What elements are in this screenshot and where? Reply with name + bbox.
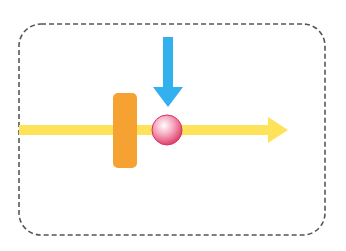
barrier <box>113 93 137 168</box>
ball <box>152 115 182 145</box>
force-arrow <box>153 37 183 107</box>
diagram-canvas <box>0 0 346 251</box>
